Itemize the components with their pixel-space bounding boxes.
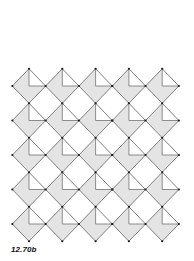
diamond-tile	[46, 207, 79, 242]
diamond-tile	[12, 138, 45, 173]
diamond-tile	[46, 69, 79, 104]
diamond-tile	[112, 207, 145, 242]
diamond-tile	[46, 103, 79, 138]
diamond-tile	[12, 172, 45, 207]
diamond-tile	[79, 138, 112, 173]
diamond-tile	[12, 69, 45, 104]
diamond-tile	[112, 103, 145, 138]
diamond-tile	[146, 138, 179, 173]
diamond-tile	[12, 103, 45, 138]
diamond-tiling-diagram	[0, 0, 194, 261]
diamond-tile	[146, 207, 179, 242]
diamond-tile	[112, 138, 145, 173]
diamond-tile	[112, 69, 145, 104]
diamond-tile	[112, 172, 145, 207]
diamond-tile	[79, 69, 112, 104]
diamond-tile	[146, 172, 179, 207]
figure-label: 12.70b	[11, 245, 37, 254]
diamond-tile	[146, 69, 179, 104]
diamond-tile	[46, 138, 79, 173]
diamond-tile	[12, 207, 45, 242]
diamond-tile	[79, 207, 112, 242]
diamond-tile	[146, 103, 179, 138]
diamond-tile	[46, 172, 79, 207]
diamond-tile	[79, 103, 112, 138]
diamond-tile	[79, 172, 112, 207]
